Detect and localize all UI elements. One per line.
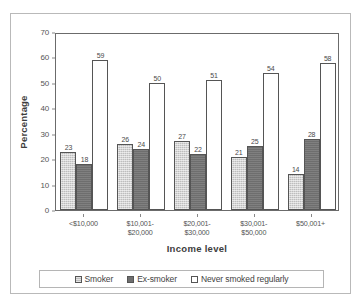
bar-value-label: 54 xyxy=(267,65,274,73)
x-axis-tick-label: $50,001+ xyxy=(282,219,339,228)
bar-slot: 28 xyxy=(304,34,320,210)
y-axis-tick-label: 20 xyxy=(41,156,50,164)
x-axis-tick-label-line: $50,001+ xyxy=(282,219,339,228)
legend-swatch-smoker xyxy=(75,276,82,283)
legend-item[interactable]: Never smoked regularly xyxy=(191,274,289,284)
y-axis-tick-label: 50 xyxy=(41,80,50,88)
y-axis-tick-label: 0 xyxy=(45,207,49,215)
legend-label: Smoker xyxy=(85,274,114,284)
bar-never[interactable]: 59 xyxy=(92,60,108,210)
bar-group: 231859 xyxy=(56,34,113,210)
x-axis-tick-label: $20,001-$30,000 xyxy=(169,219,226,237)
y-axis-tick-label: 10 xyxy=(41,182,50,190)
x-axis-tick-mark xyxy=(197,214,198,217)
chart-legend: SmokerEx-smokerNever smoked regularly xyxy=(39,270,324,288)
bar-value-label: 27 xyxy=(178,133,185,141)
bar-never[interactable]: 54 xyxy=(263,73,279,210)
x-axis-tick-mark xyxy=(83,214,84,217)
bar-slot: 26 xyxy=(117,34,133,210)
y-axis-tick-label: 60 xyxy=(41,54,50,62)
bar-slot: 27 xyxy=(174,34,190,210)
bar-slot: 23 xyxy=(60,34,76,210)
bar-value-label: 50 xyxy=(153,75,160,83)
bar-slot: 18 xyxy=(76,34,92,210)
bar-value-label: 24 xyxy=(137,141,144,149)
bar-slot: 21 xyxy=(231,34,247,210)
bar-value-label: 51 xyxy=(210,72,217,80)
y-axis-title: Percentage xyxy=(16,33,30,211)
bar-smoker[interactable]: 14 xyxy=(288,174,304,210)
bar-slot: 24 xyxy=(133,34,149,210)
y-axis-tick-label: 30 xyxy=(41,131,50,139)
bar-slot: 50 xyxy=(149,34,165,210)
x-axis-tick-mark xyxy=(311,214,312,217)
x-axis-tick-mark xyxy=(254,214,255,217)
bar-never[interactable]: 51 xyxy=(206,80,222,210)
bar-slot: 59 xyxy=(92,34,108,210)
x-axis-tick-label-line: $50,000 xyxy=(225,228,282,237)
x-axis-tick-label-line: $20,001- xyxy=(169,219,226,228)
legend-swatch-never xyxy=(191,276,198,283)
bar-slot: 22 xyxy=(190,34,206,210)
x-axis-tick-label: <$10,000 xyxy=(55,219,112,228)
x-axis-tick-label: $10,001-$20,000 xyxy=(112,219,169,237)
bars-layer: 231859262450272251212554142858 xyxy=(56,34,338,210)
bar-never[interactable]: 50 xyxy=(149,83,165,210)
x-axis-tick-label-line: $30,000 xyxy=(169,228,226,237)
legend-label: Never smoked regularly xyxy=(201,274,289,284)
bar-value-label: 23 xyxy=(65,144,72,152)
bar-smoker[interactable]: 21 xyxy=(231,157,247,210)
y-axis-tick-label: 70 xyxy=(41,29,50,37)
x-axis-tick-label: $30,001-$50,000 xyxy=(225,219,282,237)
bar-exsmoker[interactable]: 25 xyxy=(247,146,263,210)
bar-value-label: 28 xyxy=(308,131,315,139)
bar-exsmoker[interactable]: 24 xyxy=(133,149,149,210)
bar-group: 262450 xyxy=(113,34,170,210)
x-axis-tick-labels: <$10,000$10,001-$20,000$20,001-$30,000$3… xyxy=(55,214,339,240)
bar-value-label: 59 xyxy=(97,52,104,60)
legend-item[interactable]: Ex-smoker xyxy=(127,274,177,284)
bar-slot: 25 xyxy=(247,34,263,210)
bar-value-label: 14 xyxy=(292,166,299,174)
bar-exsmoker[interactable]: 28 xyxy=(304,139,320,210)
legend-item[interactable]: Smoker xyxy=(75,274,114,284)
chart-figure: 010203040506070 Percentage 2318592624502… xyxy=(0,0,363,306)
legend-swatch-exsmoker xyxy=(127,276,134,283)
bar-value-label: 26 xyxy=(121,136,128,144)
bar-value-label: 58 xyxy=(324,55,331,63)
bar-smoker[interactable]: 23 xyxy=(60,152,76,210)
x-axis-tick-label-line: $20,000 xyxy=(112,228,169,237)
bar-slot: 58 xyxy=(320,34,336,210)
bar-smoker[interactable]: 26 xyxy=(117,144,133,210)
bar-slot: 14 xyxy=(288,34,304,210)
bar-value-label: 18 xyxy=(81,156,88,164)
x-axis-title: Income level xyxy=(55,243,339,254)
bar-value-label: 21 xyxy=(235,149,242,157)
bar-group: 272251 xyxy=(170,34,227,210)
bar-value-label: 25 xyxy=(251,138,258,146)
y-axis-tick-label: 40 xyxy=(41,105,50,113)
x-axis-tick-mark xyxy=(140,214,141,217)
x-axis-tick-label-line: <$10,000 xyxy=(55,219,112,228)
x-axis-tick-label-line: $30,001- xyxy=(225,219,282,228)
plot-area: 231859262450272251212554142858 xyxy=(55,33,339,211)
x-axis-tick-label-line: $10,001- xyxy=(112,219,169,228)
bar-smoker[interactable]: 27 xyxy=(174,141,190,210)
legend-label: Ex-smoker xyxy=(137,274,177,284)
bar-group: 212554 xyxy=(226,34,283,210)
bar-group: 142858 xyxy=(283,34,340,210)
bar-slot: 54 xyxy=(263,34,279,210)
bar-exsmoker[interactable]: 18 xyxy=(76,164,92,210)
bar-value-label: 22 xyxy=(194,146,201,154)
bar-slot: 51 xyxy=(206,34,222,210)
bar-exsmoker[interactable]: 22 xyxy=(190,154,206,210)
bar-never[interactable]: 58 xyxy=(320,63,336,210)
